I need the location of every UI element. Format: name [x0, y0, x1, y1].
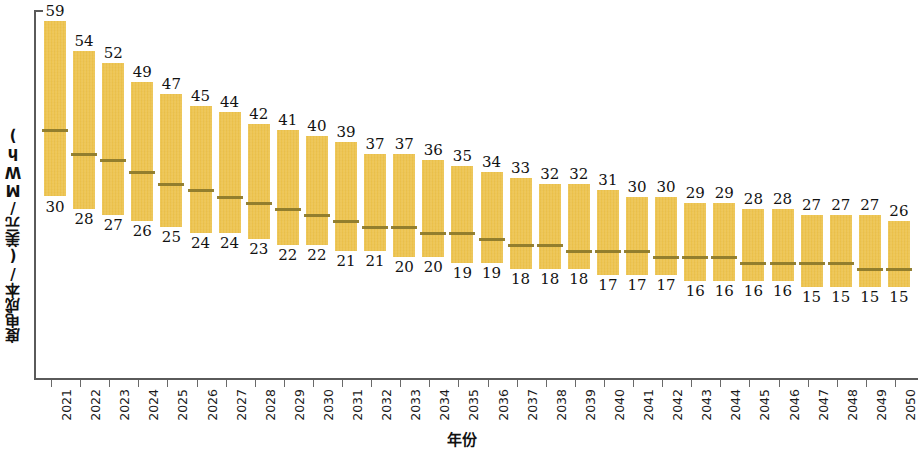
median-marker	[682, 256, 708, 259]
median-marker	[188, 189, 214, 192]
x-tick	[284, 380, 285, 387]
x-tick	[779, 380, 780, 387]
range-bar[interactable]	[859, 215, 881, 288]
range-bar[interactable]	[568, 184, 590, 269]
median-marker	[828, 262, 854, 265]
median-marker	[449, 232, 475, 235]
bar-low-value-label: 15	[875, 289, 923, 305]
bar-group[interactable]: 3218	[539, 10, 561, 378]
range-bar[interactable]	[626, 197, 648, 276]
bar-group[interactable]: 3921	[335, 10, 357, 378]
x-tick	[633, 380, 634, 387]
x-tick	[895, 380, 896, 387]
bar-group[interactable]: 4022	[306, 10, 328, 378]
bar-group[interactable]: 4424	[219, 10, 241, 378]
bar-group[interactable]: 2715	[859, 10, 881, 378]
range-bar[interactable]	[597, 190, 619, 275]
median-marker	[537, 244, 563, 247]
range-bar[interactable]	[830, 215, 852, 288]
median-marker	[246, 202, 272, 205]
median-marker	[886, 268, 912, 271]
median-marker	[770, 262, 796, 265]
bar-group[interactable]: 4122	[277, 10, 299, 378]
range-bar[interactable]	[684, 203, 706, 282]
x-tick	[604, 380, 605, 387]
bar-group[interactable]: 3720	[393, 10, 415, 378]
range-bar[interactable]	[655, 197, 677, 276]
x-tick	[691, 380, 692, 387]
range-bar[interactable]	[422, 160, 444, 257]
median-marker	[333, 220, 359, 223]
median-marker	[275, 208, 301, 211]
median-marker	[100, 159, 126, 162]
x-tick	[197, 380, 198, 387]
range-bar[interactable]	[364, 154, 386, 251]
median-marker	[158, 183, 184, 186]
x-tick	[517, 380, 518, 387]
bar-group[interactable]: 3721	[364, 10, 386, 378]
range-bar[interactable]	[742, 209, 764, 282]
bar-group[interactable]: 3620	[422, 10, 444, 378]
bar-group[interactable]: 4524	[190, 10, 212, 378]
median-marker	[857, 268, 883, 271]
x-tick	[720, 380, 721, 387]
range-bar[interactable]	[219, 112, 241, 233]
x-tick	[226, 380, 227, 387]
range-bar[interactable]	[510, 178, 532, 269]
median-marker	[740, 262, 766, 265]
bar-group[interactable]: 4926	[131, 10, 153, 378]
x-tick	[138, 380, 139, 387]
median-marker	[391, 226, 417, 229]
range-bar[interactable]	[539, 184, 561, 269]
x-axis-title: 年份	[0, 428, 924, 449]
bar-group[interactable]: 2816	[772, 10, 794, 378]
range-bar[interactable]	[306, 136, 328, 245]
x-tick	[313, 380, 314, 387]
range-bar[interactable]	[393, 154, 415, 257]
bar-high-value-label: 26	[875, 203, 923, 219]
bar-group[interactable]: 3218	[568, 10, 590, 378]
range-bar[interactable]	[277, 130, 299, 245]
bar-group[interactable]: 5428	[73, 10, 95, 378]
bar-group[interactable]: 3419	[481, 10, 503, 378]
range-bar[interactable]	[248, 124, 270, 239]
bar-group[interactable]: 2715	[830, 10, 852, 378]
median-marker	[653, 256, 679, 259]
median-marker	[595, 250, 621, 253]
median-marker	[508, 244, 534, 247]
bar-group[interactable]: 3318	[510, 10, 532, 378]
median-marker	[362, 226, 388, 229]
range-bar[interactable]	[335, 142, 357, 251]
median-marker	[217, 196, 243, 199]
chart-page: 度电成本/(美元/MWh) 59305428522749264725452444…	[0, 0, 924, 453]
median-marker	[711, 256, 737, 259]
range-bar[interactable]	[801, 215, 823, 288]
x-tick	[808, 380, 809, 387]
range-bar[interactable]	[102, 63, 124, 214]
range-bar[interactable]	[481, 172, 503, 263]
x-tick	[167, 380, 168, 387]
median-marker	[42, 129, 68, 132]
range-bar[interactable]	[131, 82, 153, 221]
bar-group[interactable]: 3519	[451, 10, 473, 378]
x-tick	[546, 380, 547, 387]
range-bar[interactable]	[888, 221, 910, 288]
x-tick	[80, 380, 81, 387]
bar-group[interactable]: 2715	[801, 10, 823, 378]
median-marker	[799, 262, 825, 265]
median-marker	[304, 214, 330, 217]
range-bar[interactable]	[73, 51, 95, 208]
bar-group[interactable]: 4725	[160, 10, 182, 378]
bar-group[interactable]: 2615	[888, 10, 910, 378]
x-tick	[866, 380, 867, 387]
range-bar[interactable]	[451, 166, 473, 263]
range-bar[interactable]	[190, 106, 212, 233]
x-tick	[488, 380, 489, 387]
bar-group[interactable]: 5930	[44, 10, 66, 378]
range-bar[interactable]	[713, 203, 735, 282]
median-marker	[71, 153, 97, 156]
x-tick	[109, 380, 110, 387]
bar-group[interactable]: 4223	[248, 10, 270, 378]
range-bar[interactable]	[772, 209, 794, 282]
range-bar[interactable]	[160, 94, 182, 227]
